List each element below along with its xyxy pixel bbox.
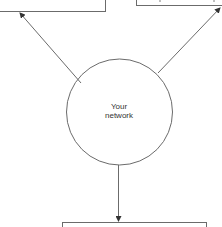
label-line-1: Your [79,102,159,111]
arrow-to-right-box [158,8,220,73]
arrow-to-left-box [20,13,81,83]
your-network-label: Your network [79,102,159,120]
diagram-canvas: Your network [0,0,222,227]
label-line-2: network [79,111,159,120]
